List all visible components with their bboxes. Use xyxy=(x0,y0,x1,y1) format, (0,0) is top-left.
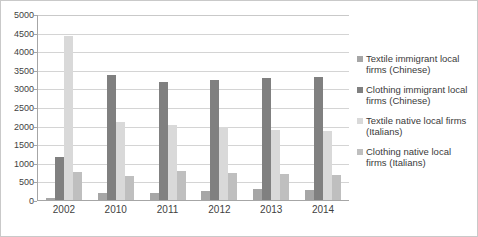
bar xyxy=(332,175,341,200)
bar xyxy=(150,193,159,200)
y-axis-tick-label: 4500 xyxy=(2,30,34,39)
bar xyxy=(228,173,237,200)
legend-item-label: Textile native local firms (Italians) xyxy=(366,115,473,137)
bar xyxy=(323,131,332,200)
y-axis-tick-label: 3000 xyxy=(2,85,34,94)
y-axis-tick-label: 500 xyxy=(2,178,34,187)
bar-chart-figure: 0500100015002000250030003500400045005000… xyxy=(0,0,478,237)
y-axis-tick-mark xyxy=(34,201,37,202)
bar-series-layer xyxy=(38,15,349,200)
bar-group xyxy=(90,15,142,200)
bar xyxy=(64,36,73,200)
legend-swatch-icon xyxy=(357,118,363,124)
y-axis-tick-label: 2500 xyxy=(2,104,34,113)
x-axis-tick-label: 2013 xyxy=(245,204,297,216)
y-axis-tick-label: 1000 xyxy=(2,160,34,169)
y-axis-tick-label: 2000 xyxy=(2,123,34,132)
y-axis-tick-label: 3500 xyxy=(2,67,34,76)
y-axis-tick-label: 0 xyxy=(2,197,34,206)
x-axis-tick-label: 2011 xyxy=(142,204,194,216)
bar xyxy=(46,198,55,200)
legend-item[interactable]: Textile immigrant local firms (Chinese) xyxy=(357,53,473,75)
bar xyxy=(210,80,219,200)
y-axis-tick-label: 1500 xyxy=(2,141,34,150)
bar xyxy=(271,130,280,200)
x-axis-tick-label: 2012 xyxy=(193,204,245,216)
chart-legend: Textile immigrant local firms (Chinese)C… xyxy=(357,53,473,177)
bar xyxy=(98,193,107,200)
legend-item-label: Clothing immigrant local firms (Chinese) xyxy=(366,84,473,106)
bar-group xyxy=(142,15,194,200)
legend-item[interactable]: Clothing native local firms (Italians) xyxy=(357,146,473,168)
plot-area-wrapper xyxy=(37,15,349,201)
x-axis-line xyxy=(37,200,349,201)
legend-item[interactable]: Clothing immigrant local firms (Chinese) xyxy=(357,84,473,106)
bar xyxy=(201,191,210,200)
y-axis-tick-label: 4000 xyxy=(2,48,34,57)
legend-item-label: Clothing native local firms (Italians) xyxy=(366,146,473,168)
bar xyxy=(107,75,116,200)
bar-group xyxy=(245,15,297,200)
bar xyxy=(219,127,228,200)
x-axis-tick-label: 2010 xyxy=(90,204,142,216)
bar xyxy=(125,176,134,200)
bar xyxy=(116,122,125,200)
x-axis-tick-label: 2014 xyxy=(297,204,349,216)
bar-group xyxy=(38,15,90,200)
bar-group xyxy=(193,15,245,200)
bar xyxy=(253,189,262,200)
bar xyxy=(262,78,271,200)
bar xyxy=(159,82,168,200)
bar xyxy=(280,174,289,200)
x-axis-tick-label: 2002 xyxy=(38,204,90,216)
bar xyxy=(314,77,323,200)
legend-swatch-icon xyxy=(357,149,363,155)
y-axis-tick-label: 5000 xyxy=(2,11,34,20)
bar-group xyxy=(297,15,349,200)
y-axis-tick-labels: 0500100015002000250030003500400045005000 xyxy=(1,15,34,201)
legend-item[interactable]: Textile native local firms (Italians) xyxy=(357,115,473,137)
legend-swatch-icon xyxy=(357,56,363,62)
x-axis-tick-labels: 200220102011201220132014 xyxy=(38,204,349,216)
bar xyxy=(177,171,186,200)
plot-area xyxy=(37,15,349,201)
bar xyxy=(55,157,64,200)
bar xyxy=(168,125,177,200)
bar xyxy=(305,190,314,200)
legend-swatch-icon xyxy=(357,87,363,93)
legend-item-label: Textile immigrant local firms (Chinese) xyxy=(366,53,473,75)
bar xyxy=(73,172,82,200)
